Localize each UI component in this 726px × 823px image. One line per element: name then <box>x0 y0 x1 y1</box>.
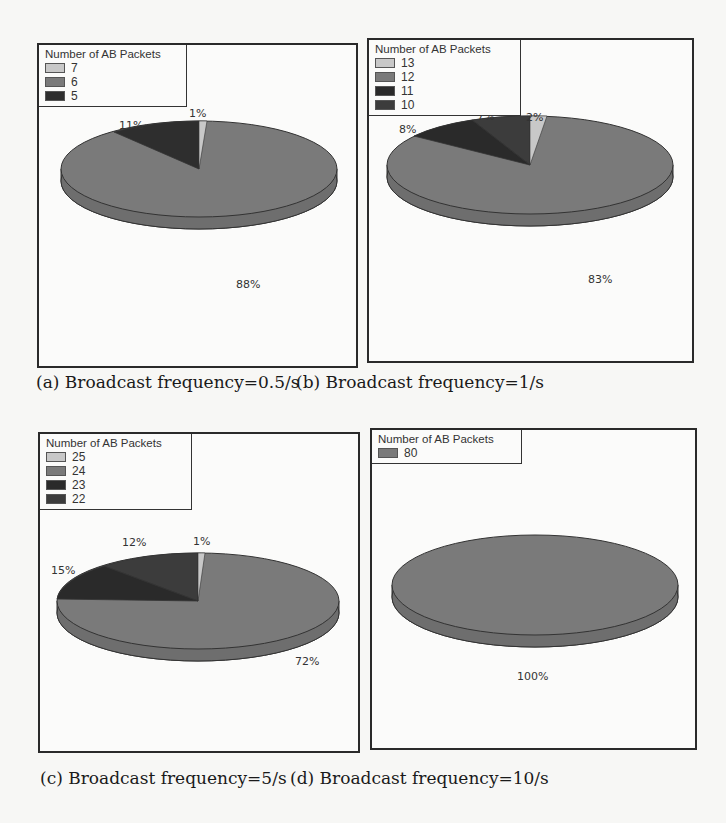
legend-swatch <box>45 77 65 87</box>
legend-swatch <box>45 91 65 101</box>
caption-b: (b) Broadcast frequency=1/s <box>296 372 544 392</box>
legend-item: 24 <box>46 464 183 478</box>
label-12: 83% <box>588 273 612 286</box>
label-6: 88% <box>236 278 260 291</box>
caption-d: (d) Broadcast frequency=10/s <box>290 768 549 788</box>
legend-swatch <box>45 63 65 73</box>
legend-swatch <box>46 466 66 476</box>
legend-item: 6 <box>45 75 178 89</box>
legend-item: 10 <box>375 98 512 112</box>
legend-swatch <box>375 72 395 82</box>
legend-title: Number of AB Packets <box>46 436 183 450</box>
legend-swatch <box>46 494 66 504</box>
label-13: 2% <box>526 111 543 124</box>
legend-swatch <box>375 100 395 110</box>
label-24: 72% <box>295 655 319 668</box>
caption-a: (a) Broadcast frequency=0.5/s <box>36 372 299 392</box>
legend-c: Number of AB Packets 25 24 23 22 <box>40 434 192 510</box>
legend-swatch <box>46 480 66 490</box>
label-7: 1% <box>189 107 206 120</box>
label-11: 8% <box>399 123 416 136</box>
legend-swatch <box>378 448 398 458</box>
caption-c: (c) Broadcast frequency=5/s <box>40 768 287 788</box>
pie-chart-panel-c: 1% 12% 15% 72% Number of AB Packets 25 2… <box>38 432 360 753</box>
legend-swatch <box>375 58 395 68</box>
legend-item: 5 <box>45 89 178 103</box>
legend-d: Number of AB Packets 80 <box>372 430 522 464</box>
label-80: 100% <box>517 670 548 683</box>
legend-item: 80 <box>378 446 513 460</box>
legend-item: 12 <box>375 70 512 84</box>
pie-chart-panel-d: 100% Number of AB Packets 80 <box>370 428 697 750</box>
legend-item: 13 <box>375 56 512 70</box>
legend-swatch <box>46 452 66 462</box>
legend-title: Number of AB Packets <box>375 42 512 56</box>
legend-item: 23 <box>46 478 183 492</box>
legend-a: Number of AB Packets 7 6 5 <box>39 45 187 107</box>
legend-swatch <box>375 86 395 96</box>
legend-item: 7 <box>45 61 178 75</box>
legend-b: Number of AB Packets 13 12 11 10 <box>369 40 521 116</box>
label-23: 15% <box>51 564 75 577</box>
label-25: 1% <box>193 535 210 548</box>
legend-title: Number of AB Packets <box>378 432 513 446</box>
label-5: 11% <box>119 119 143 132</box>
legend-title: Number of AB Packets <box>45 47 178 61</box>
legend-item: 25 <box>46 450 183 464</box>
pie-chart-panel-a: 1% 11% 88% Number of AB Packets 7 6 5 <box>37 43 358 368</box>
pie-chart-panel-b: 2% 7% 8% 83% Number of AB Packets 13 12 … <box>367 38 694 363</box>
legend-item: 11 <box>375 84 512 98</box>
pie-chart-d: 100% <box>372 430 695 748</box>
slice-80 <box>392 535 678 635</box>
label-22: 12% <box>122 536 146 549</box>
legend-item: 22 <box>46 492 183 506</box>
